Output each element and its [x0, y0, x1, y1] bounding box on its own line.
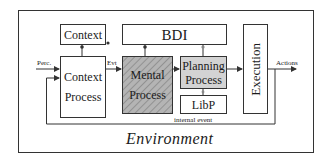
- mental-process-box: Mental Process: [122, 56, 173, 114]
- mental-process-line2: Process: [129, 85, 166, 105]
- internal-event-label: internal event: [174, 116, 212, 124]
- environment-label: Environment: [126, 130, 214, 148]
- context-process-box: Context Process: [60, 56, 106, 118]
- context-label: Context: [64, 27, 102, 43]
- perception-label: Perc.: [37, 59, 51, 67]
- bdi-box: BDI: [122, 24, 227, 45]
- context-box: Context: [60, 24, 106, 45]
- context-process-line2: Process: [65, 87, 102, 107]
- bdi-label: BDI: [162, 27, 188, 43]
- execution-box: Execution: [243, 24, 268, 114]
- context-process-line1: Context: [64, 67, 102, 87]
- mental-process-line1: Mental: [131, 65, 165, 85]
- event-label: Evt: [107, 59, 117, 67]
- libp-box: LibP: [180, 95, 227, 114]
- execution-label: Execution: [248, 43, 264, 96]
- planning-process-box: Planning Process: [180, 56, 227, 89]
- actions-label: Actions: [276, 59, 298, 67]
- planning-process-line2: Process: [185, 73, 222, 87]
- planning-process-line1: Planning: [182, 59, 225, 73]
- libp-label: LibP: [192, 97, 215, 113]
